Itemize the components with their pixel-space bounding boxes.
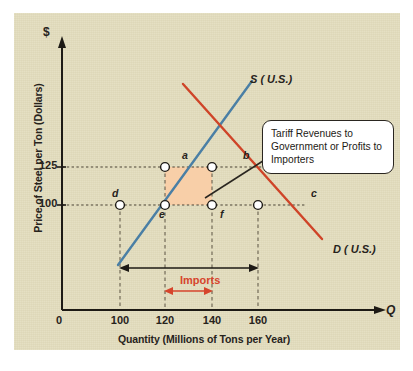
y-axis-arrowhead	[58, 36, 66, 48]
x-tick-label-0: 0	[42, 314, 76, 326]
x-tick-label-100: 100	[103, 314, 137, 326]
point-f-label: f	[220, 208, 224, 220]
supply-curve-label: S ( U.S.)	[250, 73, 292, 85]
demand-curve-label: D ( U.S.)	[333, 243, 376, 255]
point-c-marker	[254, 201, 263, 210]
point-f-marker	[208, 201, 217, 210]
tariff-revenue-callout-text: Tariff Revenues to Government or Profits…	[271, 127, 385, 166]
y-axis-symbol: $	[43, 25, 50, 39]
y-tick-label-100: 100	[39, 197, 57, 209]
x-tick-label-160: 160	[241, 314, 275, 326]
y-tick-label-125: 125	[39, 159, 57, 171]
point-c-label: c	[311, 187, 317, 199]
point-b-label: b	[243, 149, 249, 161]
point-a-marker	[161, 163, 170, 172]
point-a-label: a	[182, 149, 188, 161]
point-e-label: e	[159, 208, 165, 220]
tariff-revenue-callout: Tariff Revenues to Government or Profits…	[262, 120, 394, 174]
tariff-diagram-figure: Price of Steel per Ton (Dollars) Quantit…	[0, 0, 413, 371]
x-tick-label-140: 140	[195, 314, 229, 326]
x-tick-label-120: 120	[148, 314, 182, 326]
x-axis-arrowhead	[374, 306, 386, 314]
supply-curve	[118, 81, 252, 265]
x-axis-title: Quantity (Millions of Tons per Year)	[86, 333, 322, 345]
y-axis-title: Price of Steel per Ton (Dollars)	[32, 58, 44, 258]
tariff-revenue-rect	[165, 167, 212, 205]
point-d-label: d	[112, 187, 118, 199]
point-d-marker	[116, 201, 125, 210]
imports-span-label: Imports	[180, 274, 220, 286]
point-b-marker	[208, 163, 217, 172]
x-axis-symbol: Q	[386, 303, 395, 317]
